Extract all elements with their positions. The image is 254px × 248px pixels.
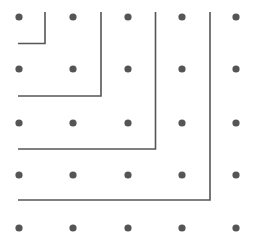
grid-dot: [15, 119, 22, 126]
dots-layer: [15, 13, 239, 231]
grid-dot: [124, 224, 131, 231]
grid-dot: [124, 13, 131, 20]
grid-dot: [232, 65, 239, 72]
grid-dot: [232, 119, 239, 126]
grid-dot: [15, 65, 22, 72]
grid-dot: [232, 13, 239, 20]
grid-dot: [15, 13, 22, 20]
grid-dot: [69, 171, 76, 178]
third-l-path: [18, 12, 156, 149]
second-l-path: [18, 12, 101, 96]
grid-dot: [15, 224, 22, 231]
grid-dot: [178, 224, 185, 231]
grid-dot: [69, 13, 76, 20]
grid-dot: [178, 65, 185, 72]
grid-dot: [124, 119, 131, 126]
grid-dot: [178, 119, 185, 126]
figure-canvas: [0, 0, 254, 248]
grid-dot: [69, 65, 76, 72]
grid-dot: [124, 65, 131, 72]
grid-dot: [69, 119, 76, 126]
grid-dot: [232, 171, 239, 178]
dot-grid-diagram: [0, 0, 254, 248]
grid-dot: [178, 171, 185, 178]
grid-dot: [15, 171, 22, 178]
grid-dot: [69, 224, 76, 231]
grid-dot: [124, 171, 131, 178]
grid-dot: [232, 224, 239, 231]
grid-dot: [178, 13, 185, 20]
